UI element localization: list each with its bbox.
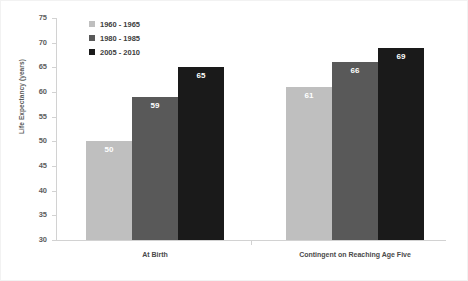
bar: 59 bbox=[132, 97, 178, 240]
bar-value-label: 50 bbox=[86, 145, 132, 154]
legend-item: 2005 - 2010 bbox=[89, 45, 140, 59]
y-axis-tick-label: 75 bbox=[39, 13, 47, 22]
bar-value-label: 65 bbox=[178, 71, 224, 80]
legend-item-label: 2005 - 2010 bbox=[100, 48, 140, 57]
y-axis-tick-label: 55 bbox=[39, 112, 47, 121]
bar: 69 bbox=[378, 48, 424, 240]
y-axis-title: Life Expectancy (years) bbox=[18, 37, 25, 157]
legend-color-swatch bbox=[89, 35, 95, 41]
bar: 50 bbox=[86, 141, 132, 240]
x-axis-category-label: Contingent on Reaching Age Five bbox=[255, 251, 455, 258]
y-axis-tick-label: 40 bbox=[39, 186, 47, 195]
bar-chart: Life Expectancy (years) 3035404550556065… bbox=[0, 0, 468, 281]
y-axis-tick-label: 70 bbox=[39, 38, 47, 47]
y-axis-tick-label: 50 bbox=[39, 136, 47, 145]
y-axis-tick-label: 60 bbox=[39, 87, 47, 96]
y-axis-tick-label: 30 bbox=[39, 235, 47, 244]
legend-color-swatch bbox=[89, 49, 95, 55]
bar-value-label: 61 bbox=[286, 91, 332, 100]
bar-value-label: 66 bbox=[332, 66, 378, 75]
legend-item: 1980 - 1985 bbox=[89, 31, 140, 45]
bar: 61 bbox=[286, 87, 332, 240]
y-axis-tick-label: 65 bbox=[39, 62, 47, 71]
bar: 66 bbox=[332, 62, 378, 240]
bar: 65 bbox=[178, 67, 224, 240]
x-axis-category-label: At Birth bbox=[55, 251, 255, 258]
y-axis-tick-label: 35 bbox=[39, 210, 47, 219]
chart-legend: 1960 - 19651980 - 19852005 - 2010 bbox=[89, 17, 140, 59]
legend-item-label: 1960 - 1965 bbox=[100, 20, 140, 29]
y-axis-tick-label: 45 bbox=[39, 161, 47, 170]
bar-value-label: 69 bbox=[378, 52, 424, 61]
x-axis-center-tick bbox=[251, 241, 252, 245]
legend-item: 1960 - 1965 bbox=[89, 17, 140, 31]
legend-color-swatch bbox=[89, 21, 95, 27]
bar-value-label: 59 bbox=[132, 101, 178, 110]
legend-item-label: 1980 - 1985 bbox=[100, 34, 140, 43]
